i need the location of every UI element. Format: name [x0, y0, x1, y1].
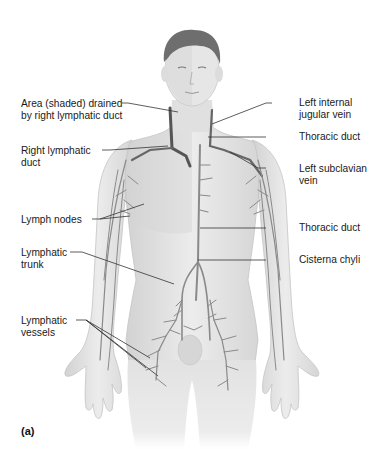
label-line: Thoracic duct — [299, 131, 360, 143]
label-lymphatic-trunk: Lymphatic trunk — [21, 247, 67, 271]
label-line: trunk — [21, 259, 67, 271]
label-line: Cisterna chyli — [299, 254, 360, 266]
label-left-internal-jugular-vein: Left internal jugular vein — [299, 97, 352, 121]
label-line: vein — [299, 175, 367, 187]
label-line: jugular vein — [299, 109, 352, 121]
label-cisterna-chyli: Cisterna chyli — [299, 254, 360, 266]
label-line: by right lymphatic duct — [21, 110, 122, 122]
panel-label: (a) — [21, 425, 34, 437]
label-lymph-nodes: Lymph nodes — [21, 214, 82, 226]
label-line: duct — [21, 157, 91, 169]
label-line: Thoracic duct — [299, 222, 360, 234]
label-area-shaded: Area (shaded) drained by right lymphatic… — [21, 98, 122, 122]
label-line: Left internal — [299, 97, 352, 109]
label-line: vessels — [21, 327, 67, 339]
label-line: Lymph nodes — [21, 214, 82, 226]
label-line: Lymphatic — [21, 247, 67, 259]
label-thoracic-duct-lower: Thoracic duct — [299, 222, 360, 234]
label-line: Lymphatic — [21, 315, 67, 327]
label-line: Right lymphatic — [21, 145, 91, 157]
label-line: Left subclavian — [299, 163, 367, 175]
body-silhouette — [65, 30, 319, 449]
label-lymphatic-vessels: Lymphatic vessels — [21, 315, 67, 339]
label-line: Area (shaded) drained — [21, 98, 122, 110]
lymphatic-system-diagram: Area (shaded) drained by right lymphatic… — [0, 0, 382, 449]
label-thoracic-duct-upper: Thoracic duct — [299, 131, 360, 143]
label-left-subclavian-vein: Left subclavian vein — [299, 163, 367, 187]
label-right-lymphatic-duct: Right lymphatic duct — [21, 145, 91, 169]
